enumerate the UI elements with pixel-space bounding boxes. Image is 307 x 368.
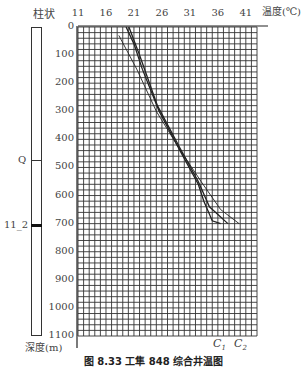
y-tick-label: 700	[44, 217, 74, 228]
y-tick-label: 500	[44, 160, 74, 171]
y-tick-label: 800	[44, 245, 74, 256]
y-tick-label: 200	[44, 76, 74, 87]
x-tick-label: 16	[94, 7, 118, 18]
x-tick-label: 21	[122, 7, 146, 18]
curve-label-c1: C1	[213, 337, 226, 352]
figure-caption: 图 8.33 工隼 848 综合井温图	[0, 353, 307, 368]
curve-label-c2: C2	[234, 337, 247, 352]
chart-grid	[77, 26, 268, 348]
y-tick-label: 100	[44, 48, 74, 59]
x-axis-title: 温度(℃)	[262, 3, 301, 18]
y-tick-label: 300	[44, 104, 74, 115]
x-tick-label: 41	[234, 7, 258, 18]
y-tick-label: 900	[44, 273, 74, 284]
x-tick-label: 31	[178, 7, 202, 18]
x-tick-label: 36	[206, 7, 230, 18]
x-tick-label: 26	[150, 7, 174, 18]
y-tick-label: 0	[44, 20, 74, 31]
y-tick-label: 400	[44, 132, 74, 143]
x-tick-label: 11	[66, 7, 90, 18]
y-tick-label: 1000	[44, 301, 74, 312]
y-tick-label: 600	[44, 189, 74, 200]
y-axis-title: 深度(m)	[25, 339, 62, 354]
